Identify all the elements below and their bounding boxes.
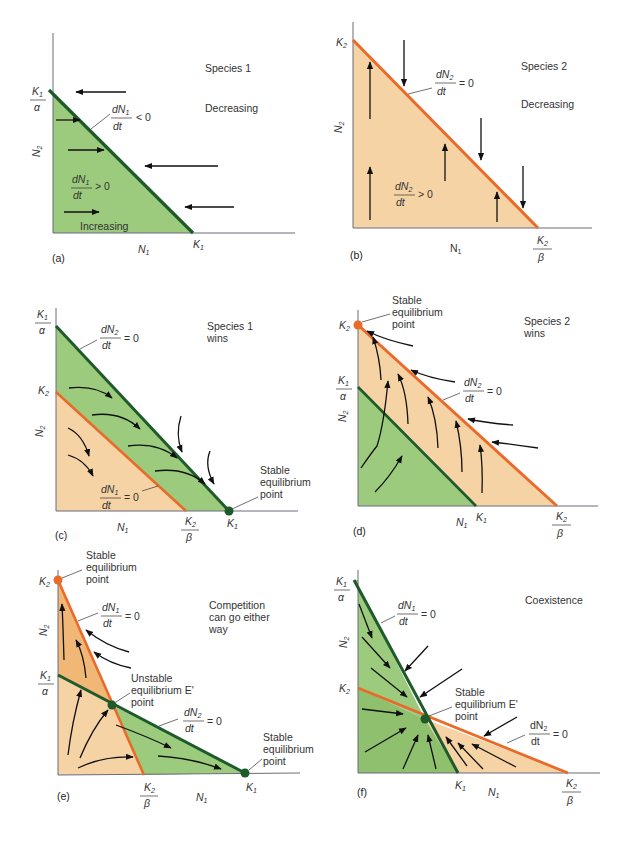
y-axis-label: N2 — [30, 145, 43, 157]
trajectory-arrow — [468, 419, 513, 425]
svg-text:= 0: = 0 — [487, 385, 502, 397]
x-axis-label: N1 — [196, 791, 208, 804]
trajectory-arrow — [86, 630, 129, 652]
equilibrium-leader — [116, 693, 130, 702]
x-mid-label: K2 β — [181, 515, 199, 543]
trajectory-arrow — [94, 652, 131, 668]
equilibrium-label: point — [392, 318, 415, 330]
x-axis-label: N1 — [117, 521, 129, 534]
panel-letter: (d) — [353, 525, 366, 537]
svg-text:> 0: > 0 — [95, 180, 110, 192]
panel-letter: (f) — [357, 786, 367, 798]
y-mid-label: K1 α — [38, 669, 54, 697]
equilibrium-label: point — [260, 488, 283, 500]
y-top-label: K1 α — [35, 308, 51, 336]
decreasing-label: Decreasing — [521, 98, 574, 110]
isocline-leader — [381, 616, 395, 623]
svg-text:dt: dt — [531, 735, 540, 747]
panel-title: Competition — [209, 599, 265, 611]
svg-text:dN2: dN2 — [530, 719, 547, 732]
green-isocline-label: dN2 dt = 0 — [183, 706, 222, 734]
arrow — [484, 717, 517, 736]
x-mid-label: K1 — [476, 511, 487, 524]
svg-text:dt: dt — [399, 615, 409, 627]
panel-d: Stable equilibrium point Species 2 wins … — [336, 294, 598, 539]
svg-text:K2: K2 — [537, 234, 548, 247]
x-end-label: K2 β — [562, 777, 581, 806]
svg-text:dt: dt — [465, 392, 475, 404]
svg-text:K1: K1 — [338, 374, 349, 387]
x-end-label: K1 — [227, 517, 238, 530]
svg-text:α: α — [34, 101, 41, 113]
isocline-leader — [443, 393, 460, 400]
svg-text:= 0: = 0 — [459, 77, 474, 89]
equilibrium-leader — [249, 759, 262, 770]
panel-title: Species 1 — [205, 62, 251, 74]
svg-text:dt: dt — [73, 189, 83, 201]
svg-text:= 0: = 0 — [125, 610, 140, 622]
isocline-leader — [507, 735, 525, 743]
svg-text:α: α — [39, 324, 46, 336]
svg-text:= 0: = 0 — [207, 715, 222, 727]
panel-title: Species 2 — [524, 315, 570, 327]
x-end-label: K1 — [246, 781, 257, 794]
equilibrium-label: point — [263, 755, 286, 767]
y-intercept-label: K2 — [336, 36, 347, 49]
svg-text:dt: dt — [437, 85, 447, 97]
isocline-leader — [91, 114, 110, 129]
y-top-label: K1 α — [334, 575, 350, 603]
unstable-equilibrium-point — [108, 701, 117, 710]
y-top-label: K2 — [39, 575, 50, 588]
orange-isocline-label: dN2 dt = 0 — [463, 376, 502, 404]
svg-text:β: β — [566, 794, 573, 806]
svg-text:dN1: dN1 — [112, 103, 129, 116]
panel-letter: (c) — [55, 529, 67, 541]
unstable-label: equilibrium E' — [131, 684, 194, 696]
y-axis-label: N2 — [337, 636, 350, 648]
unstable-label: Unstable — [131, 672, 173, 684]
equilibrium-label: Stable — [260, 464, 290, 476]
x-intercept-label: K2 β — [533, 234, 552, 263]
y-mid-label: K2 — [339, 682, 350, 695]
svg-text:dt: dt — [185, 722, 195, 734]
svg-text:dN2: dN2 — [101, 323, 118, 336]
svg-text:K2: K2 — [566, 777, 577, 790]
svg-text:dN2: dN2 — [184, 706, 201, 719]
green-isocline-label: dN2 dt = 0 — [100, 323, 139, 351]
svg-text:β: β — [143, 797, 150, 809]
equilibrium-leader — [62, 570, 82, 578]
svg-text:α: α — [338, 591, 345, 603]
svg-text:K2: K2 — [185, 515, 196, 528]
panel-title-line3: way — [208, 623, 228, 635]
panel-c: Species 1 wins dN2 dt = 0 dN1 dt = 0 Sta… — [33, 308, 311, 543]
panel-title-line2: wins — [206, 332, 228, 344]
equilibrium-label: equilibrium — [86, 561, 137, 573]
svg-text:β: β — [185, 531, 192, 543]
svg-text:> 0: > 0 — [418, 188, 433, 200]
increasing-label: Increasing — [80, 220, 129, 232]
trajectory-arrow — [178, 416, 182, 452]
equilibrium-label: Stable — [86, 549, 116, 561]
panel-b: Species 2 Decreasing dN2 dt = 0 dN2 dt >… — [332, 22, 592, 263]
y-intercept-label: K1 α — [30, 85, 46, 113]
equilibrium-label: point — [86, 573, 109, 585]
panel-letter: (e) — [57, 790, 70, 802]
svg-text:α: α — [42, 685, 49, 697]
equilibrium-label: equilibrium — [392, 306, 443, 318]
panel-title: Species 1 — [207, 320, 253, 332]
isocline-leader — [78, 613, 98, 621]
isocline-leader — [408, 88, 432, 94]
stable-equilibrium-point — [225, 507, 234, 516]
svg-text:dt: dt — [103, 617, 113, 629]
svg-text:= 0: = 0 — [124, 491, 139, 503]
panel-e: Stable equilibrium point Competition can… — [37, 549, 314, 809]
svg-text:K1: K1 — [32, 85, 43, 98]
svg-text:dt: dt — [113, 120, 123, 132]
equilibrium-leader — [429, 707, 452, 716]
x-axis-label: N1 — [138, 243, 150, 256]
svg-text:dt: dt — [102, 339, 112, 351]
arrow — [405, 646, 428, 671]
y-axis-label: N2 — [33, 425, 46, 437]
svg-text:= 0: = 0 — [124, 332, 139, 344]
trajectory-arrow — [492, 442, 538, 448]
